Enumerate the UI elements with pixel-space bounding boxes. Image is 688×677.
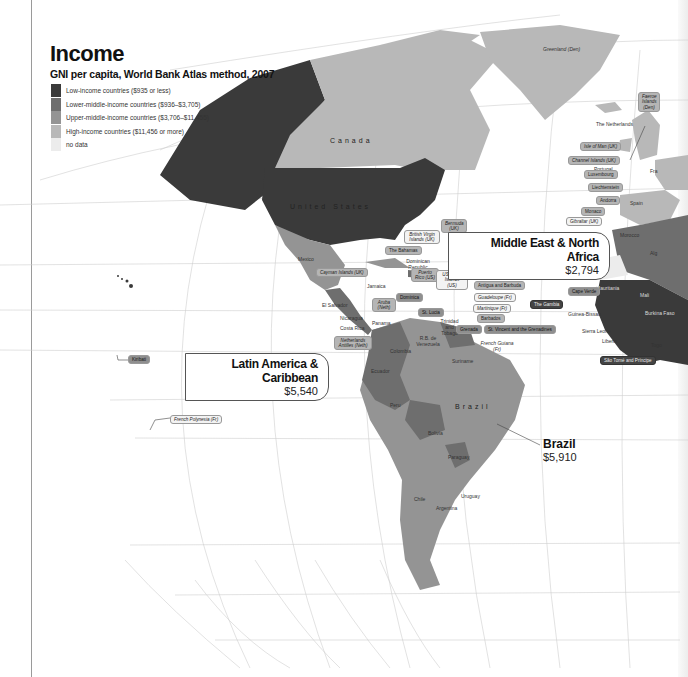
pill-sao-tome: São Tomé and Príncipe	[600, 356, 656, 365]
callout-region-name: Latin America & Caribbean	[194, 357, 318, 385]
label-sierra-leone: Sierra Leone	[582, 328, 611, 334]
legend-item-low-income: Low-income countries ($935 or less)	[51, 84, 209, 98]
label-mali: Mali	[640, 292, 649, 298]
label-togo: Togo	[651, 342, 662, 348]
pill-dominica: Dominica	[396, 293, 423, 302]
label-chile: Chile	[414, 496, 425, 502]
label-netherlands: The Netherlands	[596, 121, 633, 127]
pill-guadeloupe: Guadeloupe (Fr)	[474, 293, 516, 302]
pill-faeroe-islands: Faeroe Islands (Den)	[638, 92, 660, 112]
label-canada: Canada	[330, 137, 373, 144]
label-burkina-faso: Burkina Faso	[645, 310, 674, 316]
pill-kiribati: Kiribati	[128, 355, 150, 364]
legend-swatch	[51, 111, 61, 124]
label-venezuela: R.B. de Venezuela	[413, 335, 443, 347]
label-jamaica: Jamaica	[367, 283, 386, 289]
label-paraguay: Paraguay	[448, 454, 469, 460]
pill-bahamas: The Bahamas	[385, 246, 422, 255]
label-morocco: Morocco	[620, 232, 639, 238]
legend-label: High-income countries ($11,456 or more)	[66, 128, 184, 135]
label-algeria: Alg	[650, 250, 657, 256]
pill-british-virgin-islands: British Virgin Islands (UK)	[404, 230, 440, 244]
label-bolivia: Bolivia	[428, 430, 443, 436]
legend-label: Low-income countries ($935 or less)	[66, 87, 171, 94]
callout-country-value: $5,910	[543, 451, 577, 463]
legend-item-no-data: no data	[51, 138, 209, 152]
pill-channel-islands: Channel Islands (UK)	[568, 156, 620, 165]
pill-french-polynesia: French Polynesia (Fr)	[170, 415, 222, 424]
pill-monaco: Monaco	[581, 207, 605, 216]
label-france: Fra	[650, 168, 658, 174]
pill-bermuda: Bermuda (UK)	[441, 219, 467, 233]
label-french-guiana: French Guiana (Fr)	[480, 340, 514, 352]
legend-item-lower-middle-income: Lower-middle-income countries ($936–$3,7…	[51, 98, 209, 112]
pill-cape-verde: Cape Verde	[568, 287, 600, 296]
pill-andorra: Andorra	[596, 196, 620, 205]
label-costa-rica: Costa Rica	[340, 325, 364, 331]
pill-martinique: Martinique (Fr)	[473, 304, 511, 313]
label-uruguay: Uruguay	[461, 493, 480, 499]
legend-swatch	[51, 84, 61, 97]
label-peru: Peru	[390, 402, 401, 408]
pill-aruba: Aruba (Neth)	[372, 298, 396, 312]
label-greenland: Greenland (Den)	[543, 46, 580, 52]
callout-region-name: Middle East & North Africa	[457, 236, 599, 264]
callout-region-value: $5,540	[194, 385, 318, 397]
label-argentina: Argentina	[436, 505, 457, 511]
label-mexico: Mexico	[298, 256, 314, 262]
pill-the-gambia: The Gambia	[530, 300, 563, 309]
pill-grenada: Grenada	[456, 325, 482, 334]
page-subtitle: GNI per capita, World Bank Atlas method,…	[50, 68, 274, 80]
legend-swatch	[51, 125, 61, 138]
pill-st-lucia: St. Lucia	[418, 308, 444, 317]
pill-cayman-islands: Cayman Islands (UK)	[316, 268, 368, 277]
pill-liechtenstein: Liechtenstein	[588, 183, 623, 192]
label-guinea-bissau: Guinea-Bissau	[568, 311, 601, 317]
legend-swatch	[51, 138, 61, 151]
callout-region-value: $2,794	[457, 264, 599, 276]
label-spain: Spain	[630, 200, 643, 206]
pill-antigua: Antigua and Barbuda	[474, 281, 525, 290]
pill-puerto-rico: Puerto Rico (US)	[411, 268, 439, 282]
callout-country-name: Brazil	[543, 437, 577, 451]
callout-brazil: Brazil $5,910	[543, 437, 577, 463]
label-panama: Panama	[372, 320, 391, 326]
label-brazil-map: Brazil	[455, 403, 491, 410]
legend-label: no data	[66, 141, 88, 148]
label-el-salvador: El Salvador	[322, 302, 348, 308]
pill-luxembourg: Luxembourg	[584, 170, 618, 179]
legend-item-upper-middle-income: Upper-middle-income countries ($3,706–$1…	[51, 111, 209, 125]
legend-label: Upper-middle-income countries ($3,706–$1…	[66, 114, 209, 121]
legend-label: Lower-middle-income countries ($936–$3,7…	[66, 101, 200, 108]
callout-middle-east-north-africa: Middle East & North Africa $2,794	[448, 232, 610, 280]
page-title: Income	[50, 41, 124, 67]
label-united-states: United States	[290, 203, 371, 210]
label-liberia: Liberia	[602, 338, 617, 344]
pill-st-vincent: St. Vincent and the Grenadines	[484, 325, 556, 334]
pill-barbados: Barbados	[477, 314, 505, 323]
legend-swatch	[51, 98, 61, 111]
label-colombia: Colombia	[390, 348, 411, 354]
legend: Low-income countries ($935 or less) Lowe…	[51, 84, 209, 152]
pill-gibraltar: Gibraltar (UK)	[566, 217, 602, 226]
legend-item-high-income: High-income countries ($11,456 or more)	[51, 125, 209, 139]
label-ecuador: Ecuador	[371, 368, 390, 374]
callout-latin-america-caribbean: Latin America & Caribbean $5,540	[185, 353, 329, 401]
label-suriname: Suriname	[452, 358, 473, 364]
pill-netherlands-antilles: Netherlands Antilles (Neth)	[334, 336, 372, 350]
pill-isle-of-man: Isle of Man (UK)	[580, 142, 621, 151]
label-nicaragua: Nicaragua	[340, 315, 363, 321]
